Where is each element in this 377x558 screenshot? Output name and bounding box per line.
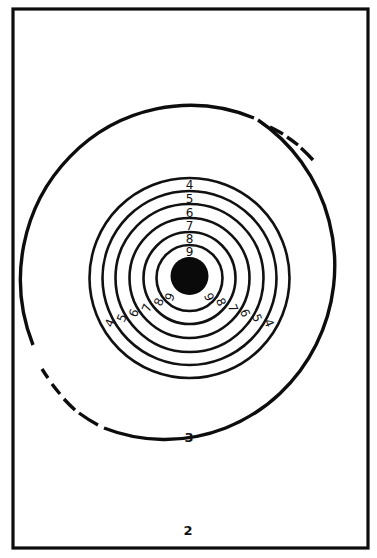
top-label-7: 7 (186, 219, 194, 233)
top-label-5: 5 (186, 192, 194, 206)
top-label-4: 4 (186, 178, 194, 192)
plate-number: 2 (183, 523, 192, 538)
outer-ring-dash (52, 384, 60, 394)
outer-ring-dash (42, 369, 48, 378)
outer-ring-dash (301, 148, 313, 160)
outer-ring-dash (287, 137, 298, 145)
outer-ring-dash (79, 413, 98, 425)
top-score-labels: 4 5 6 7 8 9 (186, 178, 194, 259)
top-label-6: 6 (186, 206, 194, 220)
outer-ring-dash (64, 399, 75, 410)
left-diagonal-labels: 4 5 6 7 8 9 (102, 291, 178, 329)
target-diagram: 4 5 6 7 8 9 4 5 6 7 8 9 9 8 7 6 5 4 3 2 (0, 0, 377, 558)
top-label-8: 8 (186, 232, 194, 246)
bullseye (171, 257, 209, 295)
outer-ring-label: 3 (184, 430, 193, 445)
outer-ring-arc-right (104, 120, 335, 439)
top-label-9: 9 (186, 245, 194, 259)
